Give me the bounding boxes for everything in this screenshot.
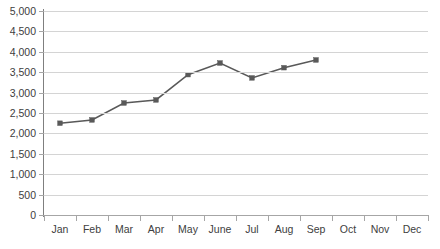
y-axis-tick: [39, 113, 44, 114]
y-axis-tick: [39, 195, 44, 196]
x-axis-tick: [76, 215, 77, 221]
y-axis-label: 1,000: [10, 169, 36, 180]
y-axis-tick: [39, 11, 44, 12]
y-axis-tick: [39, 52, 44, 53]
x-axis-tick: [332, 215, 333, 221]
x-axis-tick: [140, 215, 141, 221]
gridline: [44, 11, 428, 12]
gridline: [44, 31, 428, 32]
gridline: [44, 154, 428, 155]
y-axis-tick: [39, 154, 44, 155]
gridline: [44, 174, 428, 175]
gridline: [44, 133, 428, 134]
data-point-marker[interactable]: [58, 121, 63, 126]
y-axis-label: 4,500: [10, 26, 36, 37]
x-axis-tick: [364, 215, 365, 221]
y-axis-label: 2,000: [10, 128, 36, 139]
data-point-marker[interactable]: [282, 65, 287, 70]
x-axis-tick: [268, 215, 269, 221]
data-point-marker[interactable]: [90, 118, 95, 123]
y-axis-label: 3,500: [10, 67, 36, 78]
x-axis-label-dec: Dec: [403, 224, 422, 235]
x-axis-label-may: May: [178, 224, 198, 235]
gridline: [44, 72, 428, 73]
x-axis-label-nov: Nov: [371, 224, 390, 235]
y-axis-tick: [39, 31, 44, 32]
data-point-marker[interactable]: [218, 61, 223, 66]
y-axis-label: 5,000: [10, 6, 36, 17]
y-axis-label: 4,000: [10, 47, 36, 58]
x-axis-label-feb: Feb: [83, 224, 101, 235]
y-axis-tick: [39, 174, 44, 175]
x-axis-tick: [172, 215, 173, 221]
x-axis-tick: [236, 215, 237, 221]
x-axis-tick: [300, 215, 301, 221]
x-axis-label-june: June: [209, 224, 232, 235]
y-axis-tick: [39, 133, 44, 134]
x-axis-tick: [108, 215, 109, 221]
x-axis-label-oct: Oct: [340, 224, 356, 235]
gridline: [44, 52, 428, 53]
y-axis-label: 3,000: [10, 87, 36, 98]
gridline: [44, 195, 428, 196]
data-point-marker[interactable]: [314, 58, 319, 63]
x-axis-tick: [204, 215, 205, 221]
y-axis-label: 0: [30, 210, 36, 221]
x-axis-label-sep: Sep: [307, 224, 326, 235]
y-axis-label: 500: [18, 189, 36, 200]
x-axis-tick: [428, 215, 429, 221]
data-point-marker[interactable]: [122, 101, 127, 106]
y-axis-label: 2,500: [10, 108, 36, 119]
x-axis-tick: [44, 215, 45, 221]
x-axis-label-jul: Jul: [245, 224, 258, 235]
data-point-marker[interactable]: [154, 98, 159, 103]
x-axis-label-mar: Mar: [115, 224, 133, 235]
line-chart: 05001,0001,5002,0002,5003,0003,5004,0004…: [0, 0, 440, 249]
gridline: [44, 93, 428, 94]
y-axis-label: 1,500: [10, 149, 36, 160]
data-point-marker[interactable]: [250, 76, 255, 81]
x-axis-label-aug: Aug: [275, 224, 294, 235]
y-axis-tick: [39, 72, 44, 73]
x-axis-label-apr: Apr: [148, 224, 164, 235]
x-axis-tick: [396, 215, 397, 221]
x-axis-label-jan: Jan: [52, 224, 69, 235]
plot-area: 05001,0001,5002,0002,5003,0003,5004,0004…: [44, 11, 428, 215]
gridline: [44, 113, 428, 114]
y-axis-tick: [39, 93, 44, 94]
